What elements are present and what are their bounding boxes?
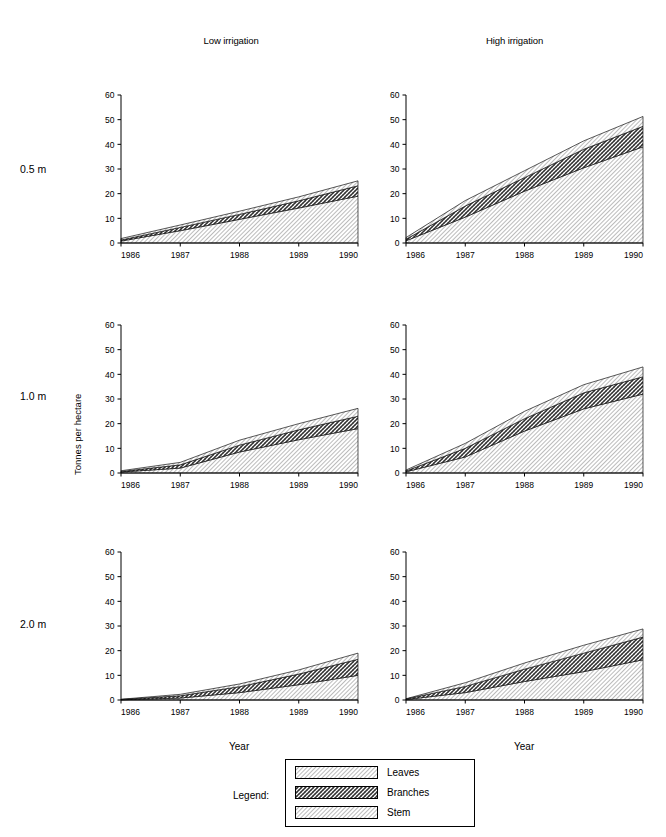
- legend-label: Branches: [387, 787, 429, 798]
- y-tick-label: 0: [395, 468, 400, 478]
- legend-caption: Legend:: [233, 790, 269, 801]
- x-tick-label: 1989: [574, 707, 593, 717]
- y-axis-label: Tonnes per hectare: [72, 394, 83, 475]
- column-title-high-irrigation: High irrigation: [486, 35, 543, 46]
- y-tick-label: 50: [105, 572, 115, 582]
- x-tick-label: 1988: [515, 480, 534, 490]
- y-tick-label: 40: [105, 370, 115, 380]
- x-axis-label-1: Year: [229, 741, 249, 752]
- panel-chart-3-2: 010203040506019861987198819891990: [372, 548, 651, 726]
- y-tick-label: 20: [390, 419, 400, 429]
- x-tick-label: 1990: [339, 250, 358, 260]
- x-tick-label: 1990: [624, 250, 643, 260]
- y-tick-label: 60: [390, 321, 400, 330]
- y-tick-label: 40: [390, 370, 400, 380]
- row-label-20: 2.0 m: [20, 618, 46, 630]
- y-tick-label: 60: [105, 91, 115, 100]
- y-tick-label: 30: [105, 621, 115, 631]
- legend-label: Leaves: [387, 767, 419, 778]
- x-tick-label: 1987: [171, 250, 190, 260]
- panel-chart-1-1: 010203040506019861987198819891990: [87, 91, 366, 269]
- y-tick-label: 20: [105, 189, 115, 199]
- y-tick-label: 50: [390, 345, 400, 355]
- y-tick-label: 60: [105, 321, 115, 330]
- x-tick-label: 1990: [339, 707, 358, 717]
- y-tick-label: 0: [110, 695, 115, 705]
- y-tick-label: 40: [390, 140, 400, 150]
- legend-swatch-leaves: [295, 766, 378, 779]
- y-tick-label: 10: [390, 444, 400, 454]
- y-tick-label: 0: [395, 238, 400, 248]
- y-tick-label: 0: [110, 238, 115, 248]
- y-tick-label: 40: [390, 597, 400, 607]
- x-tick-label: 1987: [171, 707, 190, 717]
- x-tick-label: 1989: [574, 480, 593, 490]
- row-label-10: 1.0 m: [20, 390, 46, 402]
- legend-item-branches: Branches: [295, 786, 429, 799]
- panel-chart-3-1: 010203040506019861987198819891990: [87, 548, 366, 726]
- row-label-05: 0.5 m: [20, 163, 46, 175]
- x-axis-label-2: Year: [514, 741, 534, 752]
- figure-multi-panel-area-chart: 0102030405060198619871988198919900102030…: [0, 0, 666, 837]
- y-tick-label: 20: [390, 189, 400, 199]
- y-tick-label: 50: [390, 115, 400, 125]
- x-tick-label: 1989: [574, 250, 593, 260]
- x-tick-label: 1988: [230, 707, 249, 717]
- area-band-stem: [406, 147, 643, 243]
- y-tick-label: 60: [105, 548, 115, 557]
- x-tick-label: 1989: [289, 250, 308, 260]
- x-tick-label: 1986: [121, 707, 140, 717]
- y-tick-label: 50: [390, 572, 400, 582]
- x-tick-label: 1989: [289, 480, 308, 490]
- y-tick-label: 50: [105, 345, 115, 355]
- panel-chart-2-2: 010203040506019861987198819891990: [372, 321, 651, 499]
- x-tick-label: 1986: [121, 480, 140, 490]
- x-tick-label: 1986: [121, 250, 140, 260]
- x-tick-label: 1990: [339, 480, 358, 490]
- y-tick-label: 10: [390, 671, 400, 681]
- legend-label: Stem: [387, 807, 410, 818]
- x-tick-label: 1988: [230, 480, 249, 490]
- x-tick-label: 1987: [171, 480, 190, 490]
- y-tick-label: 10: [105, 444, 115, 454]
- y-tick-label: 20: [390, 646, 400, 656]
- y-tick-label: 0: [395, 695, 400, 705]
- legend-swatch-branches: [295, 786, 378, 799]
- x-tick-label: 1990: [624, 480, 643, 490]
- y-tick-label: 10: [105, 214, 115, 224]
- x-tick-label: 1987: [456, 707, 475, 717]
- x-tick-label: 1987: [456, 250, 475, 260]
- x-tick-label: 1988: [230, 250, 249, 260]
- y-tick-label: 30: [390, 164, 400, 174]
- y-tick-label: 30: [105, 394, 115, 404]
- y-tick-label: 40: [105, 140, 115, 150]
- y-tick-label: 30: [390, 621, 400, 631]
- x-tick-label: 1986: [406, 250, 425, 260]
- y-tick-label: 10: [390, 214, 400, 224]
- x-tick-label: 1986: [406, 707, 425, 717]
- x-tick-label: 1990: [624, 707, 643, 717]
- y-tick-label: 20: [105, 646, 115, 656]
- panel-chart-2-1: 010203040506019861987198819891990: [87, 321, 366, 499]
- x-tick-label: 1986: [406, 480, 425, 490]
- y-tick-label: 0: [110, 468, 115, 478]
- y-tick-label: 10: [105, 671, 115, 681]
- panel-chart-1-2: 010203040506019861987198819891990: [372, 91, 651, 269]
- x-tick-label: 1989: [289, 707, 308, 717]
- legend-swatch-stem: [295, 806, 378, 819]
- x-tick-label: 1988: [515, 250, 534, 260]
- legend-item-stem: Stem: [295, 806, 410, 819]
- x-tick-label: 1987: [456, 480, 475, 490]
- y-tick-label: 20: [105, 419, 115, 429]
- x-tick-label: 1988: [515, 707, 534, 717]
- y-tick-label: 30: [390, 394, 400, 404]
- y-tick-label: 30: [105, 164, 115, 174]
- y-tick-label: 40: [105, 597, 115, 607]
- y-tick-label: 50: [105, 115, 115, 125]
- y-tick-label: 60: [390, 548, 400, 557]
- y-tick-label: 60: [390, 91, 400, 100]
- legend-item-leaves: Leaves: [295, 766, 419, 779]
- column-title-low-irrigation: Low irrigation: [204, 35, 259, 46]
